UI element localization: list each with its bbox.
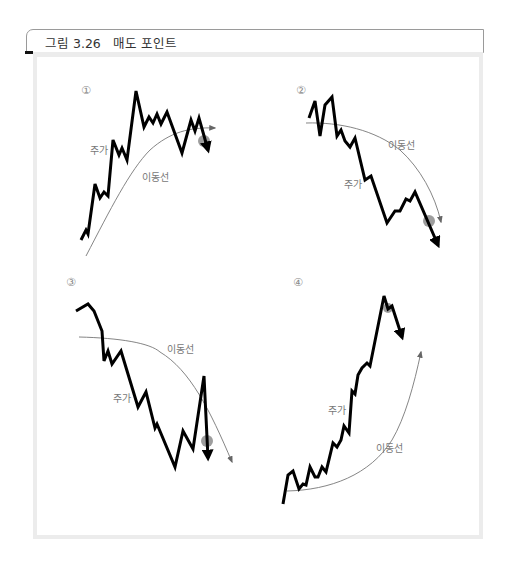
panel-3-price-label: 주가 [113,393,131,404]
panel-3-price-line [76,304,208,467]
panel-4-ma-label: 이동선 [376,443,403,454]
panel-1-price-label: 주가 [90,145,108,156]
panel-4-number: ④ [293,276,303,289]
panel-3-number: ③ [66,276,76,289]
panel-1-number: ① [81,84,91,97]
panel-4-price-label: 주가 [328,405,346,416]
panel-1: ① 주가 이동선 [81,84,215,256]
panel-4-price-line [283,296,402,504]
panel-1-ma-label: 이동선 [142,172,169,183]
panel-2-number: ② [296,84,306,97]
panel-3: ③ 이동선 주가 [66,276,232,467]
panel-3-ma-label: 이동선 [167,344,194,355]
panel-1-price-line [81,91,208,240]
panel-4: ④ 주가 이동선 [283,276,421,504]
panel-2-ma-label: 이동선 [388,140,415,151]
panel-2: ② 이동선 주가 [296,84,441,245]
panel-2-price-label: 주가 [344,179,362,190]
panel-4-moving-average-line [287,352,421,491]
sell-points-diagram: ① 주가 이동선 ② 이동선 주가 ③ 이동선 주가 ④ 주가 이동선 [0,0,507,561]
